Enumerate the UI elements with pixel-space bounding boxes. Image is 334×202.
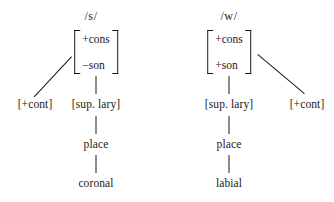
tree-w-feature-son: +son [215,59,243,71]
matrix-bracket-right-icon [112,30,118,74]
tree-s-node-cont: [+cont] [18,98,53,110]
tree-w-node-cont: [+cont] [290,98,325,110]
tree-w-branch-line-suplary [229,76,230,94]
tree-s-branch-line-cont [34,56,72,97]
tree-s-node-place: place [84,138,109,150]
matrix-bracket-right-icon [245,30,251,74]
tree-s-line-place-terminal [96,155,97,173]
tree-w-node-place: place [217,138,242,150]
tree-w-line-suplary-place [229,116,230,134]
tree-w-branch-line-cont [257,54,304,94]
tree-w-feature-cons: +cons [215,33,243,45]
tree-s-line-suplary-place [96,116,97,134]
tree-s-title: /s/ [84,10,97,22]
tree-s: /s/ +cons −son [+cont] [sup. lary] place… [0,0,167,202]
tree-w: /w/ +cons +son [sup. lary] [+cont] place… [167,0,334,202]
tree-s-feature-cons: +cons [82,33,110,45]
tree-s-root-matrix: +cons −son [74,30,118,74]
tree-s-branch-line-suplary [96,76,97,94]
tree-w-node-suplary: [sup. lary] [205,98,253,110]
tree-s-feature-son: −son [82,59,110,71]
tree-w-node-labial: labial [216,177,242,189]
tree-w-feature-rows: +cons +son [213,30,245,74]
feature-geometry-diagram: /s/ +cons −son [+cont] [sup. lary] place… [0,0,334,202]
tree-w-title: /w/ [220,10,237,22]
tree-w-line-place-terminal [229,155,230,173]
tree-s-node-suplary: [sup. lary] [72,98,120,110]
tree-w-root-matrix: +cons +son [207,30,251,74]
tree-s-node-coronal: coronal [78,177,113,189]
tree-s-feature-rows: +cons −son [80,30,112,74]
